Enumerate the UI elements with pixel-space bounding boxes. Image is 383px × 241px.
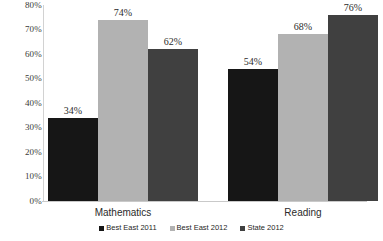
bar-value-label: 54%: [244, 57, 262, 67]
bar-value-label: 68%: [294, 22, 312, 32]
y-axis-tick-label: 40%: [4, 99, 42, 108]
bar-column[interactable]: 68%: [278, 5, 328, 201]
legend-item[interactable]: Best East 2011: [99, 224, 156, 232]
bar-group: 34%74%62%: [48, 5, 198, 201]
bar-column[interactable]: 34%: [48, 5, 98, 201]
bar-chart: 80%70%60%50%40%30%20%10%0% 34%74%62%54%6…: [0, 0, 383, 241]
legend-item[interactable]: Best East 2012: [170, 224, 228, 232]
y-axis-tick-label: 10%: [4, 172, 42, 181]
plot-area: 34%74%62%54%68%76%: [44, 5, 366, 201]
y-axis-tick-label: 60%: [4, 50, 42, 59]
bar-column[interactable]: 62%: [148, 5, 198, 201]
y-axis-tick-label: 70%: [4, 25, 42, 34]
legend-swatch-icon: [170, 226, 175, 231]
bar[interactable]: [278, 34, 328, 201]
bar-column[interactable]: 54%: [228, 5, 278, 201]
legend-label: State 2012: [247, 224, 283, 232]
legend-label: Best East 2012: [177, 224, 228, 232]
bar[interactable]: [328, 15, 378, 201]
legend-label: Best East 2011: [106, 224, 156, 232]
bar[interactable]: [228, 69, 278, 201]
bar[interactable]: [148, 49, 198, 201]
x-axis-category-label: Reading: [284, 207, 321, 218]
bar[interactable]: [48, 118, 98, 201]
y-axis-tick-label: 30%: [4, 123, 42, 132]
bar-group-bars: 54%68%76%: [228, 5, 378, 201]
bar-column[interactable]: 76%: [328, 5, 378, 201]
y-axis-tick-label: 50%: [4, 74, 42, 83]
y-axis-tick-label: 80%: [4, 1, 42, 10]
chart-legend: Best East 2011Best East 2012State 2012: [0, 224, 383, 232]
legend-swatch-icon: [99, 226, 104, 231]
x-axis-line: [42, 201, 367, 202]
bar-column[interactable]: 74%: [98, 5, 148, 201]
y-axis: 80%70%60%50%40%30%20%10%0%: [0, 0, 42, 241]
bar-value-label: 74%: [114, 8, 132, 18]
y-axis-tick-label: 0%: [4, 197, 42, 206]
y-axis-tick-label: 20%: [4, 148, 42, 157]
bar-group: 54%68%76%: [228, 5, 378, 201]
bar-value-label: 34%: [64, 106, 82, 116]
x-axis-category-label: Mathematics: [95, 207, 152, 218]
bar-value-label: 76%: [344, 3, 362, 13]
legend-swatch-icon: [240, 226, 245, 231]
bar-group-bars: 34%74%62%: [48, 5, 198, 201]
legend-item[interactable]: State 2012: [240, 224, 283, 232]
bar-value-label: 62%: [164, 37, 182, 47]
bar[interactable]: [98, 20, 148, 201]
